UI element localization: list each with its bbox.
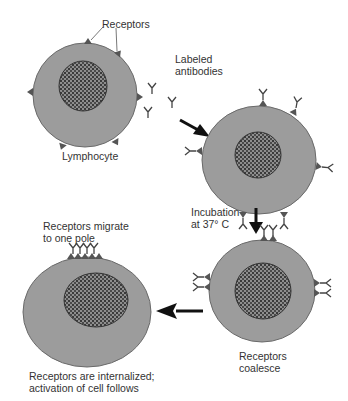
coalesce-label-2: coalesce	[239, 362, 280, 374]
lymphocyte-label: Lymphocyte	[62, 150, 118, 162]
arrow-icon	[180, 120, 210, 137]
lymphocyte-cell	[27, 27, 143, 151]
labeled-antibodies-label: Labeled	[175, 53, 212, 65]
receptor-cap	[67, 243, 103, 259]
coalesce-label: Receptors	[239, 350, 287, 362]
diagram-canvas	[0, 0, 348, 401]
incubation-temp-label: at 37° C	[191, 218, 229, 230]
capped-cell	[23, 243, 151, 367]
coalesce-cell	[193, 225, 331, 342]
arrow-icon	[156, 303, 203, 319]
antibody-icon	[144, 83, 176, 118]
receptors-label: Receptors	[102, 18, 150, 30]
migrate-label: Receptors migrate	[43, 220, 129, 232]
migrate-label-2: to one pole	[43, 232, 95, 244]
incubation-label: Incubation	[191, 206, 239, 218]
internalized-label-2: activation of cell follows	[29, 382, 139, 394]
labeled-antibodies-label-2: antibodies	[175, 65, 223, 77]
internalized-label: Receptors are internalized;	[29, 370, 154, 382]
